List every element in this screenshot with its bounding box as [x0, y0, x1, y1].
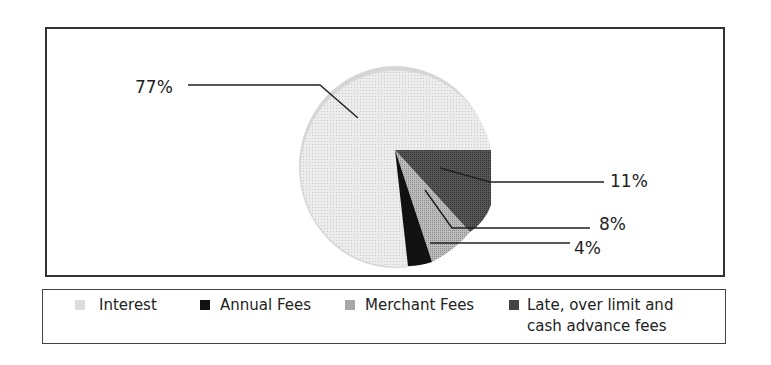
legend-label-annual-fees: Annual Fees	[220, 295, 311, 315]
legend-label-late-fees-line2: cash advance fees	[527, 316, 667, 336]
label-merchant-fees: 8%	[599, 214, 626, 234]
legend-label-late-fees-line1: Late, over limit and	[527, 295, 673, 315]
legend-swatch-interest	[75, 300, 85, 310]
label-late-fees: 11%	[610, 171, 648, 191]
legend-swatch-merchant-fees	[345, 300, 355, 310]
legend-label-interest: Interest	[99, 295, 157, 315]
label-annual-fees: 4%	[574, 238, 601, 258]
legend-label-merchant-fees: Merchant Fees	[365, 295, 474, 315]
legend-swatch-late-fees	[509, 300, 519, 310]
label-interest: 77%	[135, 77, 173, 97]
legend-swatch-annual-fees	[200, 300, 210, 310]
